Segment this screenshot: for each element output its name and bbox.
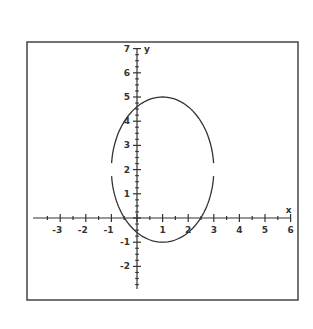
y-tick-label: 1 (124, 189, 130, 199)
y-tick-label: 6 (124, 68, 130, 78)
y-tick-label: 3 (124, 140, 130, 150)
x-axis-label: x (286, 205, 292, 215)
y-tick-label: 2 (124, 165, 130, 175)
y-tick-label: 7 (124, 44, 130, 54)
x-tick-label: 5 (262, 225, 268, 235)
x-tick-label: -1 (103, 225, 113, 235)
plot-frame (27, 42, 298, 300)
tick-labels: -3-2-1123456-2-11234567xy (52, 44, 294, 272)
x-tick-label: 1 (159, 225, 165, 235)
x-tick-label: 6 (287, 225, 293, 235)
y-tick-label: 5 (124, 92, 130, 102)
y-tick-label: -1 (120, 237, 130, 247)
x-tick-label: 3 (211, 225, 217, 235)
x-tick-label: -2 (78, 225, 88, 235)
chart: -3-2-1123456-2-11234567xy (0, 0, 313, 329)
x-tick-label: 4 (236, 225, 242, 235)
x-tick-label: -3 (52, 225, 62, 235)
y-axis-label: y (144, 44, 150, 54)
axes (33, 49, 291, 289)
y-tick-label: -2 (120, 261, 130, 271)
